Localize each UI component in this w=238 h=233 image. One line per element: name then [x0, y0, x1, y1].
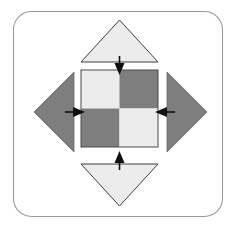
quadrant-top-right — [120, 70, 159, 109]
quadrant-top-left — [81, 70, 120, 109]
quadrant-bottom-left — [81, 109, 120, 148]
diagram-canvas — [0, 0, 238, 233]
quadrant-bottom-right — [120, 109, 159, 148]
figure-root: A rounded square frame containing a cent… — [0, 0, 238, 233]
checkerboard-square — [81, 70, 158, 147]
